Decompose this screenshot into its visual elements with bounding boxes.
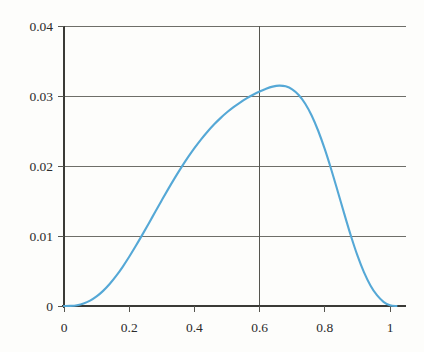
x-axis-tick-labels: 00.20.40.60.81 [61,320,394,335]
gridlines [64,26,406,236]
chart-figure: 00.010.020.030.04 00.20.40.60.81 [0,0,424,352]
y-tick-label-0: 0 [46,299,53,314]
plot-canvas: 00.010.020.030.04 00.20.40.60.81 [0,0,424,352]
y-tick-label-0.01: 0.01 [29,229,53,244]
y-tick-label-0.02: 0.02 [29,159,53,174]
data-series-curve [64,86,397,306]
y-tick-label-0.04: 0.04 [29,19,53,34]
x-tick-label-0.2: 0.2 [121,320,138,335]
tick-marks [58,26,390,312]
y-tick-label-0.03: 0.03 [29,89,53,104]
x-tick-label-1: 1 [387,320,394,335]
x-tick-label-0.6: 0.6 [251,320,268,335]
axis-lines [62,26,406,308]
x-tick-label-0.8: 0.8 [316,320,333,335]
y-axis-tick-labels: 00.010.020.030.04 [29,19,53,314]
curve-density [64,86,397,306]
x-tick-label-0: 0 [61,320,68,335]
x-tick-label-0.4: 0.4 [186,320,203,335]
